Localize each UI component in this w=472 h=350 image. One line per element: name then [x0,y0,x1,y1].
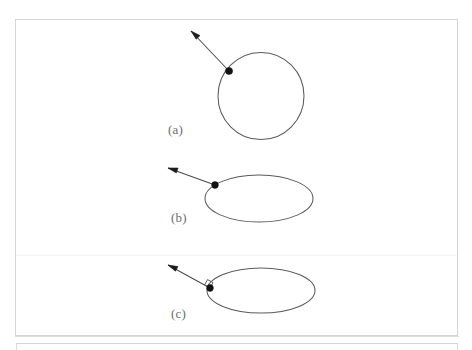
closed-curve-ellipse-b [205,175,313,222]
panel-label-a: (a) [168,122,183,138]
figure-page: (a) (b) (c) [0,0,472,350]
closed-curve-circle-a [218,53,304,140]
base-point-b [212,182,219,189]
scan-artifact-line [16,255,457,256]
base-point-c [207,285,214,292]
next-page-frame-edge [16,343,458,350]
closed-curve-ellipse-c [207,268,315,313]
panel-label-c: (c) [171,306,186,322]
panel-a-drawing [160,22,320,147]
arrowhead-b [168,168,178,173]
page-frame-bottom-rule [15,336,459,337]
figure-panel-a [160,22,320,147]
base-point-a [225,67,232,74]
panel-label-b: (b) [171,210,187,226]
arrowhead-a [191,31,200,39]
arrowhead-c [168,265,178,271]
